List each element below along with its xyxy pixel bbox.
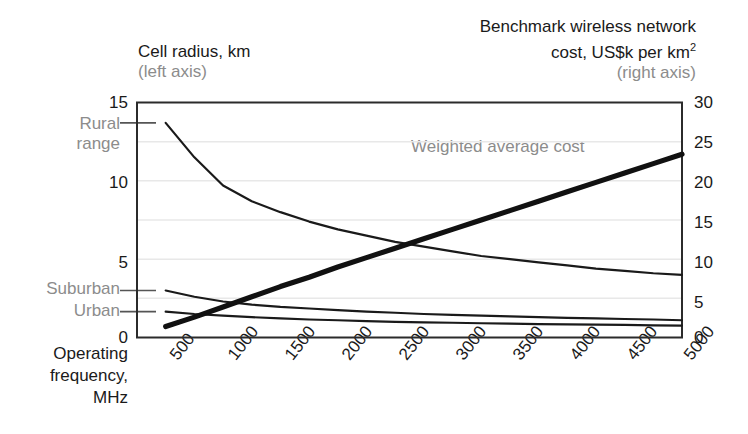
series-rural-range <box>166 123 682 275</box>
gridlines <box>137 142 682 299</box>
series-weighted-average-cost <box>166 154 682 326</box>
chart-figure: Cell radius, km (left axis) Benchmark wi… <box>0 0 748 434</box>
plot-area <box>0 0 748 434</box>
data-series <box>166 123 682 327</box>
